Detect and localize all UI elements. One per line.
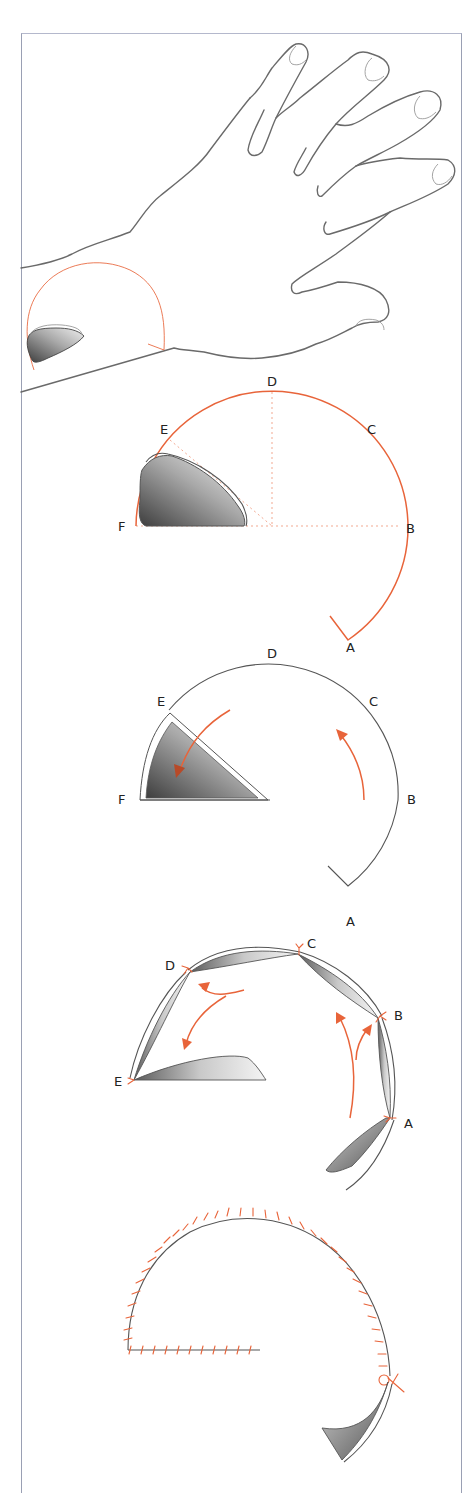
label-B: B (406, 521, 415, 536)
label-B: B (394, 1008, 403, 1023)
closure-line-arc (128, 1219, 390, 1376)
rotation-arrow-AB-1 (340, 1018, 354, 1118)
interrupted-sutures-arc (124, 1208, 387, 1366)
label-B: B (407, 792, 416, 807)
rotation-arrow-right (340, 734, 364, 800)
label-A: A (346, 640, 355, 655)
label-C: C (307, 936, 316, 951)
label-E: E (157, 694, 165, 709)
dog-ear-tail (322, 1382, 388, 1460)
defect-lesion (27, 328, 84, 362)
arrow-head-AB-1 (336, 1012, 346, 1024)
label-C: C (367, 422, 376, 437)
defect-lesion (139, 456, 245, 526)
label-E: E (114, 1074, 122, 1089)
flap-segment-CB (298, 954, 378, 1018)
label-F: F (118, 519, 125, 534)
arrow-head-D (198, 982, 210, 992)
label-F: F (118, 792, 125, 807)
label-D: D (165, 958, 175, 973)
flap-segment-BA (378, 1018, 390, 1118)
label-D: D (267, 646, 277, 661)
rotation-arrow-D (202, 988, 244, 994)
label-A: A (346, 914, 355, 929)
label-A: A (404, 1116, 413, 1131)
arrow-head-right (336, 729, 348, 741)
panel-5-closure (124, 1208, 404, 1462)
label-E: E (160, 422, 168, 437)
flap-segment-DC (190, 951, 298, 972)
rotation-arrow-E (186, 996, 226, 1044)
flap-tail (326, 1118, 390, 1172)
label-C: C (369, 694, 378, 709)
hand-outline (21, 44, 455, 392)
flap-base (134, 1056, 266, 1080)
panel-3-rotation-plan: D E C F B A (118, 646, 416, 929)
label-D: D (267, 374, 277, 389)
panel-2-flap-design: D E C F B A (118, 374, 415, 655)
panel-1-hand (21, 44, 455, 392)
panel-4-flap-rotation: C D B E A (114, 936, 413, 1190)
